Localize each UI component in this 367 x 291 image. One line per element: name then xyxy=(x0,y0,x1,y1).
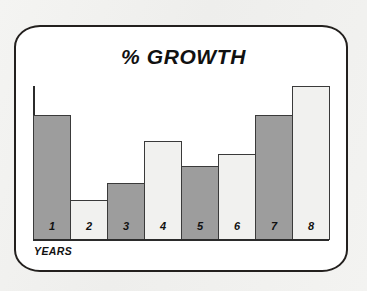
x-axis-title: YEARS xyxy=(34,245,72,257)
bar-label-6: 6 xyxy=(234,221,240,240)
bar-8: 8 xyxy=(292,86,330,240)
bar-label-7: 7 xyxy=(271,221,277,240)
figure-page: % GROWTH 1 2 3 4 5 6 7 xyxy=(0,0,367,291)
bar-label-4: 4 xyxy=(160,221,166,240)
bar-label-5: 5 xyxy=(197,221,203,240)
bar-label-2: 2 xyxy=(86,221,92,240)
bar-2: 2 xyxy=(70,200,108,240)
chart-title: % GROWTH xyxy=(0,45,367,69)
bar-label-3: 3 xyxy=(123,221,129,240)
bar-7: 7 xyxy=(255,115,293,240)
plot-area: 1 2 3 4 5 6 7 8 xyxy=(33,86,329,241)
bar-label-1: 1 xyxy=(49,221,55,240)
bar-4: 4 xyxy=(144,141,182,240)
x-axis-line xyxy=(33,239,329,241)
bar-label-8: 8 xyxy=(308,221,314,240)
bar-1: 1 xyxy=(33,115,71,240)
bar-5: 5 xyxy=(181,166,219,240)
bar-3: 3 xyxy=(107,183,145,240)
bar-series: 1 2 3 4 5 6 7 8 xyxy=(33,86,329,240)
bar-6: 6 xyxy=(218,154,256,240)
